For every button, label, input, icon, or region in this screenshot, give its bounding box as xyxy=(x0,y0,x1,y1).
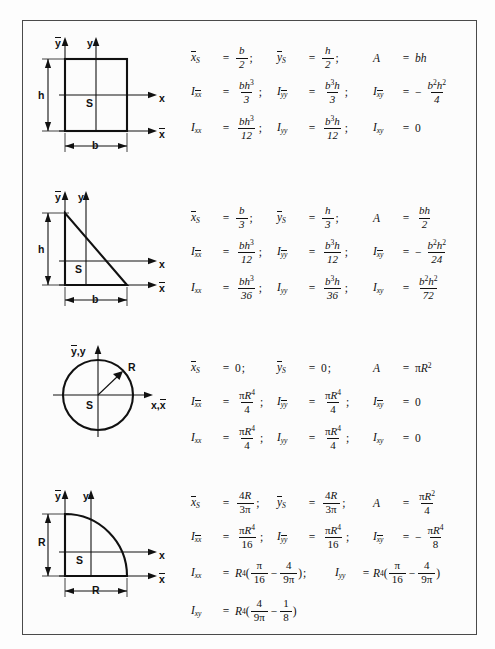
equation-line: xS = 0 ; yS = 0 ; A = πR2 xyxy=(191,351,481,385)
width-arrow-right xyxy=(118,297,127,303)
quarter-circle-outline xyxy=(65,514,127,576)
equation-term: Iyy = πR44 ; xyxy=(277,425,369,451)
equation-term: yS = 0 ; xyxy=(277,361,369,375)
x-axis-arrow xyxy=(148,258,157,265)
x-bar-axis-label: x xyxy=(159,282,165,294)
height-label: h xyxy=(38,243,44,255)
table-row: y y x x S R R xS = 4R3π ; yS xyxy=(23,476,478,631)
width-label: R xyxy=(92,584,100,596)
y-bar-axis-arrow xyxy=(62,191,69,200)
table-row: y y x x S h b xS = b3 ; yS xyxy=(23,177,478,327)
x-axis-label: x xyxy=(159,92,165,104)
equation-term: xS = 0 ; xyxy=(191,361,277,375)
horizontal-axis-arrow xyxy=(144,392,153,399)
equation-term: Iyy = b3h3 ; xyxy=(277,79,369,105)
equation-term: Ixx = R4 ( π16 − 49π ) ; xyxy=(191,560,331,585)
equation-term: Ixy = 0 xyxy=(369,431,421,445)
figure-quarter-circle: y y x x S R R xyxy=(29,476,197,626)
equation-term: Ixx = bh336 ; xyxy=(191,275,277,301)
equation-term: Ixy = b2h272 xyxy=(369,275,442,301)
width-label: b xyxy=(92,293,98,305)
figure-circle: y,y x,x S R xyxy=(29,323,197,473)
formula-block-triangle: xS = b3 ; yS = h3 ; A = bh2 xyxy=(191,177,481,327)
width-arrow-left xyxy=(65,143,74,149)
equation-term: A = bh2 xyxy=(369,205,434,230)
height-arrow-bottom xyxy=(45,122,51,131)
equation-term: Ixy = R4 ( 49π − 18 ) xyxy=(191,598,297,623)
width-arrow-right xyxy=(118,143,127,149)
width-label: b xyxy=(92,139,98,151)
x-axis-label: x xyxy=(159,549,165,561)
x-axis-label: x xyxy=(159,258,165,270)
rectangle-diagram-svg xyxy=(29,27,197,177)
x-bar-axis-arrow xyxy=(148,128,157,135)
formula-block-quarter-circle: xS = 4R3π ; yS = 4R3π ; A = πR24 xyxy=(191,476,481,626)
circle-diagram-svg xyxy=(29,323,197,473)
equation-line: xS = 4R3π ; yS = 4R3π ; A = πR24 xyxy=(191,486,481,520)
radius-label: R xyxy=(128,361,136,373)
y-axis-label: y xyxy=(83,490,89,502)
equation-term: A = πR2 xyxy=(369,361,432,374)
equation-term: Iyy = b3h12 ; xyxy=(277,239,369,265)
y-bar-axis-label: y xyxy=(55,37,61,49)
width-arrow-left xyxy=(65,588,74,594)
equation-term: Ixy = 0 xyxy=(369,395,421,409)
formula-block-rectangle: xS = b2 ; yS = h2 ; A = bh xyxy=(191,27,481,177)
x-bar-axis-arrow xyxy=(148,573,157,580)
y-axis-label: y xyxy=(78,191,84,203)
centroid-label: S xyxy=(86,97,93,109)
equation-term: xS = 4R3π ; xyxy=(191,490,277,515)
equation-line: xS = b2 ; yS = h2 ; A = bh xyxy=(191,41,481,75)
y-bar-axis-arrow xyxy=(62,490,69,499)
equation-term: A = πR24 xyxy=(369,490,439,516)
equation-term: Ixy = − b2h24 xyxy=(369,79,450,105)
width-arrow-left xyxy=(65,297,74,303)
equation-term: Ixx = bh312 ; xyxy=(191,239,277,265)
equation-line: xS = b3 ; yS = h3 ; A = bh2 xyxy=(191,201,481,235)
equation-term: Ixy = − πR48 xyxy=(369,524,448,550)
equation-line: Ixx = πR44 ; Iyy = πR44 ; Ixy = 0 xyxy=(191,385,481,419)
equation-term: Ixx = bh312 ; xyxy=(191,115,277,141)
centroid-label: S xyxy=(86,399,93,411)
equation-line: Ixx = πR44 ; Iyy = πR44 ; Ixy = 0 xyxy=(191,421,481,455)
formula-table-frame: y y x x S h b xS = b2 ; yS xyxy=(22,20,477,635)
page-canvas: y y x x S h b xS = b2 ; yS xyxy=(0,0,495,649)
height-arrow-top xyxy=(45,514,51,523)
x-axis-arrow xyxy=(148,549,157,556)
equation-term: Iyy = πR44 ; xyxy=(277,389,369,415)
table-row: y y x x S h b xS = b2 ; yS xyxy=(23,27,478,177)
equation-term: yS = h2 ; xyxy=(277,45,369,70)
y-bar-axis-arrow xyxy=(62,37,69,46)
radius-line xyxy=(98,375,119,395)
equation-line: Ixy = R4 ( 49π − 18 ) xyxy=(191,594,481,628)
centroid-label: S xyxy=(76,554,83,566)
equation-term: Ixy = 0 xyxy=(369,121,421,135)
equation-line: Ixx = πR416 ; Iyy = πR416 ; Ixy = − xyxy=(191,520,481,554)
height-arrow-bottom xyxy=(45,276,51,285)
height-label: R xyxy=(38,536,46,548)
equation-term: Ixy = − b2h224 xyxy=(369,239,450,265)
equation-line: Ixx = bh336 ; Iyy = b3h36 ; Ixy = b2 xyxy=(191,271,481,305)
height-label: h xyxy=(38,89,44,101)
y-axis-label: y xyxy=(87,37,93,49)
vertical-axis-arrow xyxy=(95,345,102,354)
equation-term: Ixx = πR44 ; xyxy=(191,425,277,451)
equation-term: xS = b3 ; xyxy=(191,205,277,230)
figure-rectangle: y y x x S h b xyxy=(29,27,197,177)
equation-term: Ixx = πR416 ; xyxy=(191,524,277,550)
equation-term: yS = h3 ; xyxy=(277,205,369,230)
figure-triangle: y y x x S h b xyxy=(29,177,197,327)
equation-term: yS = 4R3π ; xyxy=(277,490,369,515)
formula-block-circle: xS = 0 ; yS = 0 ; A = πR2 xyxy=(191,323,481,473)
x-bar-axis-label: x xyxy=(159,573,165,585)
horizontal-axis-label: x,x xyxy=(151,399,166,411)
equation-term: A = bh xyxy=(369,52,427,64)
equation-term: Ixx = bh33 ; xyxy=(191,79,277,105)
centroid-label: S xyxy=(75,263,82,275)
equation-line: Ixx = bh33 ; Iyy = b3h3 ; Ixy = − xyxy=(191,75,481,109)
equation-term: Iyy = πR416 ; xyxy=(277,524,369,550)
y-bar-axis-label: y xyxy=(55,191,61,203)
x-bar-axis-arrow xyxy=(148,282,157,289)
vertical-axis-label: y,y xyxy=(71,345,86,357)
y-axis-arrow xyxy=(93,37,100,46)
